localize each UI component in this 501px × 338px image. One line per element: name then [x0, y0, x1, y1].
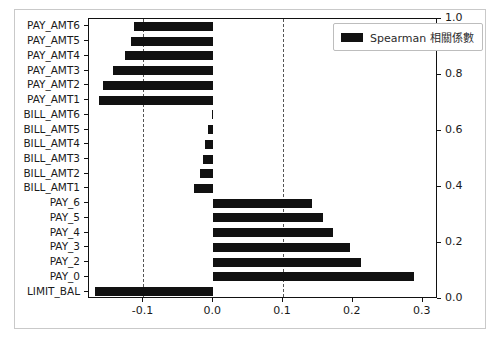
bar	[213, 228, 333, 237]
y-tick-label: PAY_AMT5	[0, 35, 80, 45]
legend-swatch-icon	[341, 33, 363, 42]
y-tick-mark	[84, 232, 88, 233]
y-tick-mark	[84, 84, 88, 85]
bar	[200, 169, 213, 178]
y-tick-label: PAY_AMT3	[0, 65, 80, 75]
y-tick-mark	[84, 25, 88, 26]
bar	[103, 81, 213, 90]
chart-legend: Spearman 相關係數	[333, 23, 483, 51]
y-tick-label: BILL_AMT5	[0, 124, 80, 134]
y-tick-label: PAY_AMT6	[0, 20, 80, 30]
y-tick-mark	[84, 55, 88, 56]
x-tick-label: 0.3	[392, 305, 452, 317]
y-tick-mark	[84, 276, 88, 277]
bar	[213, 258, 361, 267]
bar	[203, 155, 213, 164]
right-tick-label: 1.0	[445, 12, 463, 24]
y-tick-mark	[84, 114, 88, 115]
y-tick-label: PAY_3	[0, 241, 80, 251]
y-tick-label: BILL_AMT4	[0, 138, 80, 148]
plot-axes	[88, 18, 437, 298]
bar	[125, 51, 214, 60]
y-tick-label: BILL_AMT2	[0, 168, 80, 178]
bar	[134, 22, 214, 31]
y-tick-label: PAY_0	[0, 271, 80, 281]
bar	[131, 37, 213, 46]
y-tick-label: PAY_4	[0, 227, 80, 237]
bar	[212, 110, 213, 119]
bar	[95, 287, 214, 296]
x-tick-label: -0.1	[112, 305, 172, 317]
right-tick-mark	[437, 242, 441, 243]
y-tick-label: PAY_AMT1	[0, 94, 80, 104]
right-tick-mark	[437, 298, 441, 299]
bar	[194, 184, 213, 193]
x-tick-label: 0.0	[182, 305, 242, 317]
y-tick-label: PAY_2	[0, 256, 80, 266]
y-tick-mark	[84, 291, 88, 292]
right-tick-mark	[437, 74, 441, 75]
right-tick-mark	[437, 18, 441, 19]
bar	[213, 213, 323, 222]
y-tick-mark	[84, 187, 88, 188]
y-tick-label: PAY_6	[0, 197, 80, 207]
y-tick-mark	[84, 143, 88, 144]
y-tick-mark	[84, 261, 88, 262]
y-tick-mark	[84, 246, 88, 247]
bar	[208, 125, 214, 134]
bar	[113, 66, 214, 75]
x-tick-mark	[212, 298, 213, 302]
right-tick-label: 0.4	[445, 180, 463, 192]
x-tick-mark	[352, 298, 353, 302]
bar	[213, 272, 414, 281]
y-tick-mark	[84, 129, 88, 130]
x-tick-mark	[142, 298, 143, 302]
y-tick-mark	[84, 99, 88, 100]
y-tick-label: BILL_AMT3	[0, 153, 80, 163]
right-tick-mark	[437, 186, 441, 187]
right-tick-mark	[437, 130, 441, 131]
y-tick-label: LIMIT_BAL	[0, 286, 80, 296]
bar	[99, 96, 213, 105]
y-tick-mark	[84, 202, 88, 203]
x-tick-label: 0.1	[252, 305, 312, 317]
x-tick-label: 0.2	[322, 305, 382, 317]
right-tick-label: 0.8	[445, 68, 463, 80]
plot-area	[89, 19, 436, 297]
bar	[213, 243, 350, 252]
reference-line	[283, 19, 284, 297]
right-tick-label: 0.2	[445, 236, 463, 248]
right-tick-label: 0.0	[445, 292, 463, 304]
y-tick-mark	[84, 40, 88, 41]
x-tick-mark	[422, 298, 423, 302]
y-tick-label: PAY_5	[0, 212, 80, 222]
bar	[213, 199, 312, 208]
figure-canvas: Spearman 相關係數 PAY_AMT6PAY_AMT5PAY_AMT4PA…	[0, 0, 501, 338]
y-tick-label: PAY_AMT2	[0, 79, 80, 89]
bar	[205, 140, 213, 149]
x-tick-mark	[282, 298, 283, 302]
y-tick-mark	[84, 173, 88, 174]
right-tick-label: 0.6	[445, 124, 463, 136]
y-tick-label: PAY_AMT4	[0, 50, 80, 60]
y-tick-mark	[84, 70, 88, 71]
legend-label: Spearman 相關係數	[370, 29, 474, 45]
y-tick-label: BILL_AMT6	[0, 109, 80, 119]
reference-line	[143, 19, 144, 297]
y-tick-mark	[84, 158, 88, 159]
y-tick-label: BILL_AMT1	[0, 182, 80, 192]
y-tick-mark	[84, 217, 88, 218]
